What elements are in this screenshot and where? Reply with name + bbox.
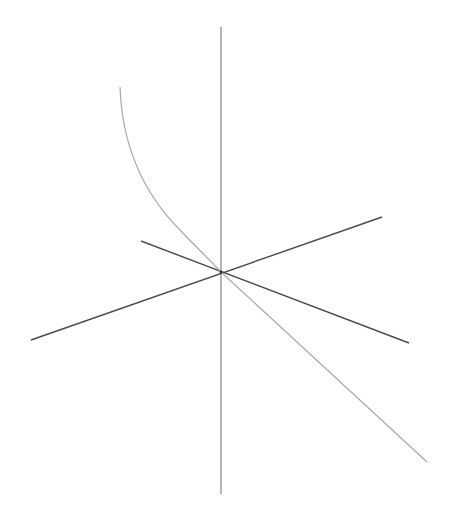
axis-b-line xyxy=(141,241,409,343)
diagram-canvas xyxy=(0,0,450,518)
parametric-curve xyxy=(120,87,427,462)
origin-point xyxy=(220,271,223,274)
axis-a-line xyxy=(31,217,382,340)
